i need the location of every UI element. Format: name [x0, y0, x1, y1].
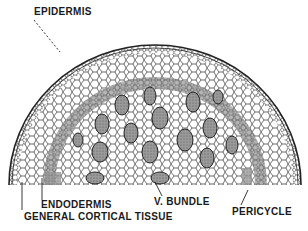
stem-cross-section-diagram: EPIDERMIS ENDODERMIS V. BUNDLE GENERAL C…	[0, 0, 308, 231]
label-general-cortical-tissue: GENERAL CORTICAL TISSUE	[24, 211, 173, 222]
label-pericycle: PERICYCLE	[232, 206, 292, 217]
label-endodermis: ENDODERMIS	[41, 199, 112, 210]
label-v-bundle: V. BUNDLE	[154, 196, 210, 207]
pericycle-leader	[241, 190, 248, 205]
label-epidermis: EPIDERMIS	[34, 6, 92, 17]
epidermis-leader	[34, 20, 60, 52]
